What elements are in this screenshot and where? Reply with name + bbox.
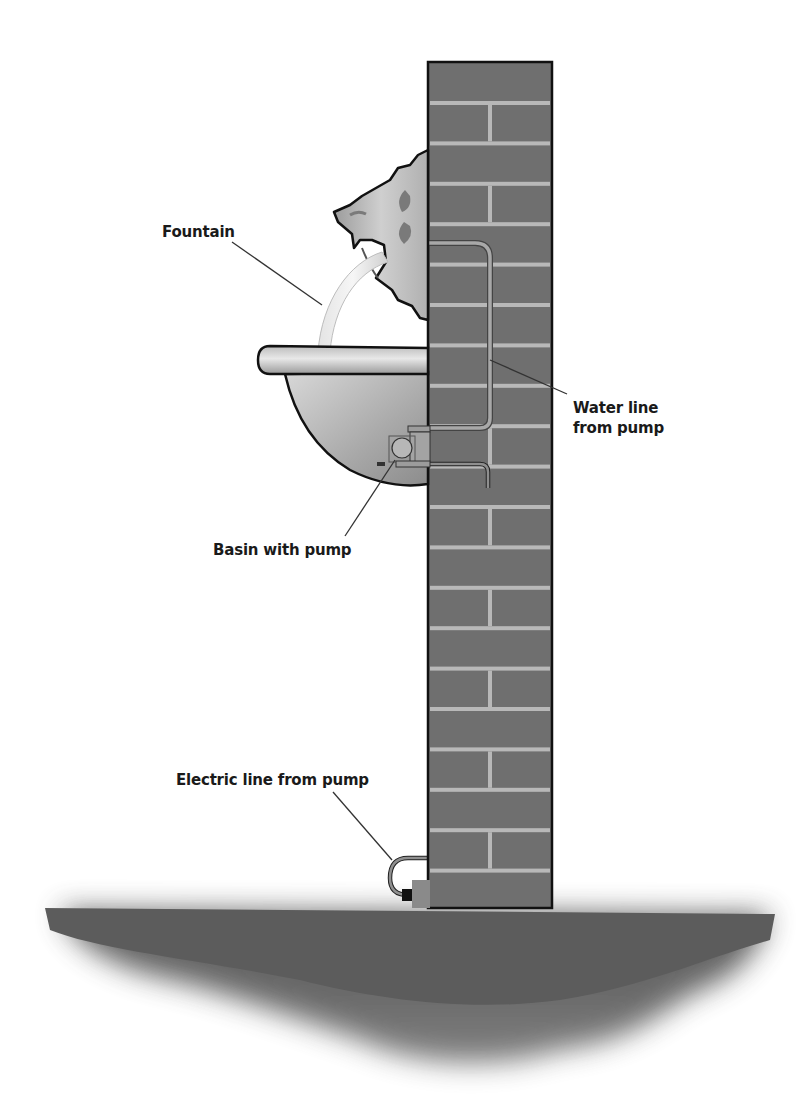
brick-wall — [412, 62, 552, 908]
diagram-canvas — [0, 0, 803, 1099]
label-water-line: Water line from pump — [573, 398, 664, 438]
fountain-diagram: Fountain Water line from pump Basin with… — [0, 0, 803, 1099]
label-basin-with-pump: Basin with pump — [213, 540, 351, 560]
label-fountain: Fountain — [162, 222, 235, 242]
ground — [45, 908, 775, 1063]
water-stream — [318, 252, 388, 352]
label-electric-line: Electric line from pump — [176, 770, 369, 790]
